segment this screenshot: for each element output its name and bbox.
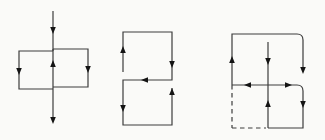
upper-left-flow-arrowhead-icon <box>120 46 126 53</box>
right-loop-edges <box>53 49 88 87</box>
lower-left-flow-arrowhead-icon <box>120 105 126 112</box>
middle-crossbar-flow-arrowhead-icon <box>141 77 148 83</box>
entry-flow-arrowhead-icon <box>50 27 56 34</box>
right-diagram-loops-with-dashed-square <box>229 34 306 128</box>
left-diagram-two-adjacent-loops <box>16 11 91 124</box>
lower-right-loop <box>268 85 303 128</box>
figure-canvas <box>0 0 325 140</box>
middle-left-flow-arrowhead-icon <box>244 82 251 88</box>
middle-diagram-serpentine-stacked-loops <box>120 32 175 125</box>
exit-flow-arrowhead-icon <box>50 117 56 124</box>
lower-right-flow-arrowhead-icon <box>169 88 175 95</box>
square-right-flow-arrowhead-icon <box>300 101 306 108</box>
center-lower-flow-arrowhead-icon <box>265 100 271 107</box>
outer-right-flow-arrowhead-icon <box>300 67 306 74</box>
left-edge-flow-arrowhead-icon <box>16 68 22 75</box>
center-upper-flow-arrowhead-icon <box>265 58 271 65</box>
upper-right-flow-arrowhead-icon <box>169 61 175 68</box>
outer-left-flow-arrowhead-icon <box>229 56 235 63</box>
left-loop-edges <box>19 51 53 89</box>
middle-edge-flow-arrowhead-icon <box>50 60 56 67</box>
figure <box>0 0 325 140</box>
middle-right-flow-arrowhead-icon <box>285 82 292 88</box>
right-edge-flow-arrowhead-icon <box>85 66 91 73</box>
